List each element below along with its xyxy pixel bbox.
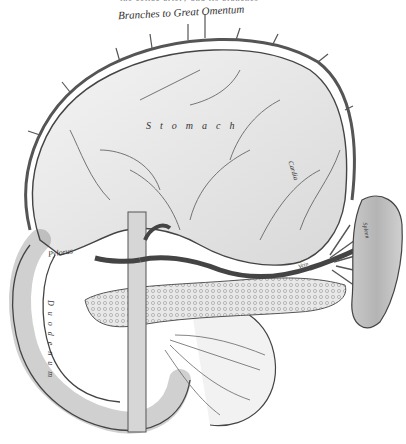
label-stomach: Stomach [146, 120, 243, 131]
illustration-drawing [0, 0, 406, 444]
aorta [128, 212, 146, 432]
spleen [352, 196, 402, 328]
jejunum [190, 300, 276, 426]
stomach [26, 14, 355, 265]
anatomy-figure: the celiac artery and its branches [0, 0, 406, 444]
duodenum [20, 240, 180, 423]
label-duodenum: Duodenum [46, 300, 55, 383]
